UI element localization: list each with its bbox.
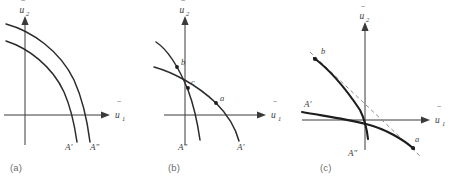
y-axis-arrowhead [21,16,28,25]
x-axis-label-sub: 1 [122,115,125,122]
point-marker-a [411,146,415,150]
panel-b-plot: b c a ‾ u 2 ‾ u 1 A″ A′ [150,0,300,184]
point-marker-c [186,86,190,90]
x-axis-label-a: ‾ u 1 [115,101,125,122]
axes-group-b [164,16,266,145]
curve-A-double-prime [156,42,200,140]
curve-A-double-prime [6,24,90,142]
curve-A-prime [6,41,77,142]
x-axis-label-base: u [115,110,120,120]
figure-root: ‾ u 2 ‾ u 1 A′ A″ (a) [0,0,449,184]
x-axis-label-sub: 1 [442,120,445,127]
curve-label-A-double-prime: A″ [89,142,99,152]
x-axis-label-c: ‾ u 1 [435,106,445,127]
caption-panel-b: (b) [168,162,180,173]
x-axis-arrowhead [421,116,430,123]
x-axis-label-base: u [435,115,440,125]
curve-label-A-prime: A′ [236,142,245,152]
curve-A-double-prime [314,58,368,139]
y-axis-label-c: ‾ u 2 [360,6,371,23]
y-axis-label-base: u [360,11,365,21]
point-label-a: a [415,134,419,144]
curve-label-A-double-prime: A″ [177,142,187,152]
x-axis-label-b: ‾ u 1 [271,101,281,122]
y-axis-label-a: ‾ u 2 [20,0,31,17]
y-axis-arrowhead [181,16,188,25]
curve-label-A-prime: A′ [303,99,312,109]
caption-panel-c: (c) [320,162,332,173]
panel-a-plot: ‾ u 2 ‾ u 1 A′ A″ [0,0,150,184]
point-marker-a [214,101,218,105]
point-label-c: c [191,77,195,87]
x-axis-label-base: u [271,110,276,120]
point-marker-b [175,65,179,69]
panel-b: b c a ‾ u 2 ‾ u 1 A″ A′ (b) [150,0,300,184]
y-axis-label-b: ‾ u 2 [180,0,191,17]
y-axis-label-sub: 2 [26,10,30,17]
point-label-b: b [321,46,325,56]
caption-panel-a: (a) [10,162,22,173]
y-axis-label-sub: 2 [186,10,190,17]
y-axis-label-base: u [180,5,185,15]
x-axis-arrowhead [101,111,110,118]
point-marker-b [313,57,317,61]
x-axis-label-sub: 1 [278,115,281,122]
curve-A-prime [154,67,239,141]
panel-c: b a ‾ u 2 ‾ u 1 A′ A″ (c) [300,0,449,184]
point-label-a: a [220,93,224,103]
y-axis-label-sub: 2 [366,16,370,23]
y-axis-arrowhead [361,22,368,31]
curve-A-prime [302,112,414,149]
y-axis-label-base: u [20,5,25,15]
point-label-b: b [181,57,185,67]
curve-label-A-prime: A′ [64,142,73,152]
x-axis-arrowhead [257,111,266,118]
panel-a: ‾ u 2 ‾ u 1 A′ A″ (a) [0,0,150,184]
curve-label-A-double-prime: A″ [347,148,357,158]
panel-c-plot: b a ‾ u 2 ‾ u 1 A′ A″ [300,0,449,184]
